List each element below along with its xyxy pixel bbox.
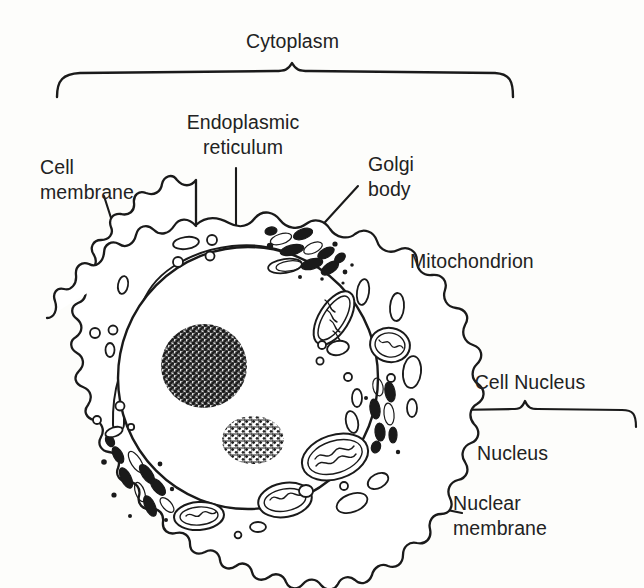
cytoplasm-bracket (57, 63, 513, 97)
label-mitochondrion: Mitochondrion (410, 249, 534, 274)
label-endoplasmic-reticulum-line1: Endoplasmic (178, 110, 308, 135)
label-cell-nucleus: Cell Nucleus (455, 370, 605, 395)
label-cell-membrane-line2: membrane (40, 180, 134, 205)
label-nuclear-membrane-line1: Nuclear (453, 491, 521, 516)
label-cell-membrane-line1: Cell (40, 155, 74, 180)
label-nucleus: Nucleus (477, 441, 548, 466)
cell-diagram-svg (0, 0, 644, 588)
label-nuclear-membrane-line2: membrane (453, 516, 547, 541)
nucleolus-large (161, 324, 247, 408)
label-golgi-body-line1: Golgi (368, 152, 414, 177)
nucleolus-small (222, 416, 284, 464)
label-golgi-body-line2: body (368, 177, 411, 202)
label-endoplasmic-reticulum-line2: reticulum (178, 135, 308, 160)
cell-diagram-figure: Cytoplasm Endoplasmic reticulum Cell mem… (0, 0, 644, 588)
label-cytoplasm: Cytoplasm (230, 29, 355, 54)
